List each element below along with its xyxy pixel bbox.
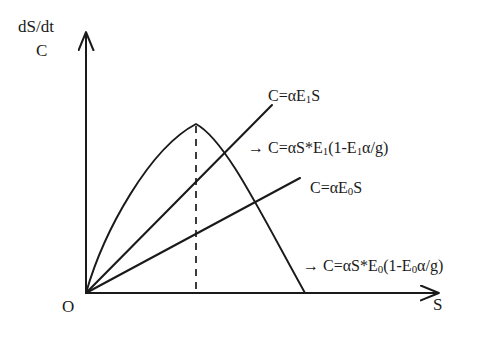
right-arrow-icon: →: [303, 257, 319, 274]
x-axis-label-s: S: [433, 296, 442, 314]
annotation-text: C=αE: [268, 87, 306, 104]
annotation-text-tail: S: [311, 87, 320, 104]
origin-label: O: [62, 298, 74, 316]
y-axis-label-dsdt: dS/dt: [18, 18, 54, 36]
annotation-c-alpha-e1-s: C=αE1S: [268, 88, 320, 105]
plot-canvas: [0, 0, 496, 350]
annotation-c-alpha-s-e1-term: → C=αS*E1(1-E1α/g): [248, 140, 388, 157]
annotation-text: C=αS*E: [323, 257, 378, 274]
annotation-text: C=αE: [310, 179, 348, 196]
annotation-text-tail: (1-E: [383, 257, 411, 274]
annotation-c-alpha-e0-s: C=αE0S: [310, 180, 362, 197]
line-c-alpha-e0-s: [86, 178, 300, 293]
y-axis-label-c: C: [36, 42, 47, 60]
line-c-alpha-e1-s: [86, 105, 272, 293]
figure-root: dS/dt C S O C=αE1S → C=αS*E1(1-E1α/g) C=…: [0, 0, 496, 350]
annotation-c-alpha-s-e0-term: → C=αS*E0(1-E0α/g): [303, 258, 443, 275]
annotation-text-tail: (1-E: [328, 139, 356, 156]
annotation-text: C=αS*E: [268, 139, 323, 156]
right-arrow-icon: →: [248, 139, 264, 156]
annotation-text-tail-2: α/g): [417, 257, 443, 274]
annotation-text-tail: S: [353, 179, 362, 196]
annotation-text-tail-2: α/g): [362, 139, 388, 156]
